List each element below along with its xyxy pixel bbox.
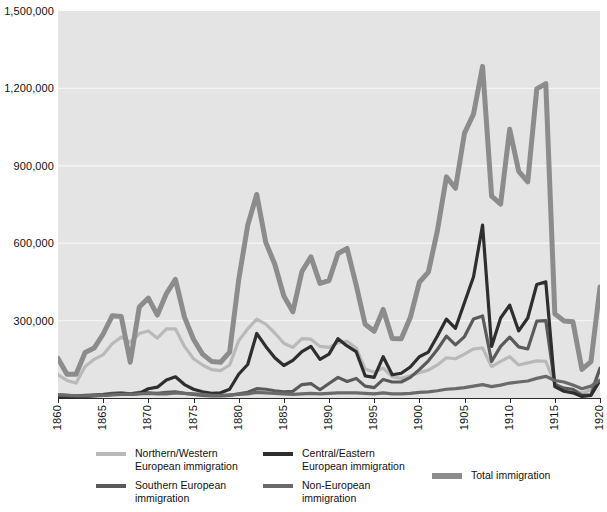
x-tick bbox=[419, 398, 420, 403]
y-tick-label: 1,500,000 bbox=[2, 6, 54, 17]
x-tick bbox=[329, 398, 330, 403]
legend-item[interactable]: Northern/Western European immigration bbox=[96, 447, 256, 472]
x-tick-label: 1870 bbox=[142, 405, 153, 430]
chart-legend: Northern/Western European immigrationCen… bbox=[0, 443, 607, 512]
legend-swatch-icon bbox=[432, 473, 462, 479]
legend-label: Northern/Western European immigration bbox=[135, 447, 238, 472]
legend-swatch-icon bbox=[263, 484, 293, 488]
x-tick-label: 1865 bbox=[97, 405, 108, 430]
legend-label: Central/Eastern European immigration bbox=[302, 447, 405, 472]
y-axis: 300,000600,000900,0001,200,0001,500,000 bbox=[0, 0, 54, 410]
legend-item[interactable]: Central/Eastern European immigration bbox=[263, 447, 433, 472]
series-line bbox=[58, 376, 600, 396]
legend-label: Non-European immigration bbox=[302, 479, 370, 504]
x-tick-label: 1905 bbox=[459, 405, 470, 430]
x-tick bbox=[600, 398, 601, 403]
legend-item[interactable]: Total immigration bbox=[432, 469, 602, 482]
x-tick-label: 1900 bbox=[413, 405, 424, 430]
x-tick bbox=[103, 398, 104, 403]
legend-swatch-icon bbox=[96, 484, 126, 488]
x-tick bbox=[465, 398, 466, 403]
x-tick bbox=[194, 398, 195, 403]
x-tick-label: 1890 bbox=[323, 405, 334, 430]
y-tick-label: 600,000 bbox=[2, 238, 54, 249]
legend-label: Total immigration bbox=[471, 469, 550, 482]
x-tick bbox=[284, 398, 285, 403]
x-tick bbox=[239, 398, 240, 403]
x-tick-label: 1910 bbox=[504, 405, 515, 430]
y-tick-label: 1,200,000 bbox=[2, 83, 54, 94]
x-tick bbox=[148, 398, 149, 403]
x-tick-label: 1860 bbox=[52, 405, 63, 430]
x-tick-label: 1880 bbox=[233, 405, 244, 430]
x-tick-label: 1895 bbox=[368, 405, 379, 430]
x-tick bbox=[510, 398, 511, 403]
x-tick-label: 1920 bbox=[594, 405, 605, 430]
plot-area bbox=[58, 11, 600, 398]
x-tick bbox=[374, 398, 375, 403]
x-tick-label: 1885 bbox=[278, 405, 289, 430]
y-tick-label: 300,000 bbox=[2, 316, 54, 327]
legend-label: Southern European immigration bbox=[135, 479, 226, 504]
legend-swatch-icon bbox=[263, 452, 293, 456]
x-tick-label: 1915 bbox=[549, 405, 560, 430]
immigration-line-chart: 300,000600,000900,0001,200,0001,500,000 … bbox=[0, 0, 607, 512]
y-tick-label: 900,000 bbox=[2, 161, 54, 172]
plot-canvas bbox=[58, 11, 600, 398]
legend-swatch-icon bbox=[96, 452, 126, 456]
legend-item[interactable]: Southern European immigration bbox=[96, 479, 256, 504]
x-tick-label: 1875 bbox=[188, 405, 199, 430]
x-tick bbox=[58, 398, 59, 403]
x-tick bbox=[555, 398, 556, 403]
legend-item[interactable]: Non-European immigration bbox=[263, 479, 433, 504]
